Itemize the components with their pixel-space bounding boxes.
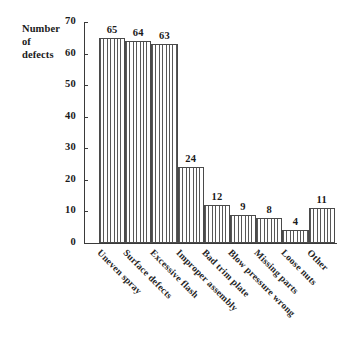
y-tick-label: 60 [50, 47, 76, 58]
bar [125, 41, 151, 243]
bar [282, 230, 308, 243]
bar-value-label: 11 [305, 194, 339, 205]
bar-value-label: 8 [252, 204, 286, 215]
bar [230, 215, 256, 243]
y-tick-mark [84, 243, 88, 244]
bar-value-label: 24 [174, 153, 208, 164]
bar [309, 208, 335, 243]
plot-area: 656463241298411 [85, 22, 337, 243]
bar [178, 167, 204, 243]
y-tick-label: 70 [50, 15, 76, 26]
y-tick-label: 20 [50, 173, 76, 184]
bar [99, 38, 125, 243]
y-tick-label: 40 [50, 110, 76, 121]
x-axis-line [84, 243, 337, 244]
y-tick-label: 30 [50, 141, 76, 152]
y-tick-label: 0 [50, 236, 76, 247]
bar-value-label: 4 [278, 216, 312, 227]
bar-value-label: 63 [147, 30, 181, 41]
y-tick-label: 50 [50, 78, 76, 89]
defects-bar-chart: Number of defects 010203040506070 656463… [0, 0, 348, 356]
bar [151, 44, 177, 243]
y-tick-label: 10 [50, 204, 76, 215]
